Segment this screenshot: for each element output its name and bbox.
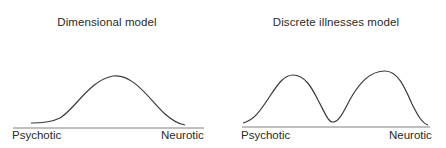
discrete-right-label: Neurotic [389,129,432,141]
discrete-left-label: Psychotic [241,129,290,141]
discrete-panel: Discrete illnesses model Psychotic Neuro… [0,0,446,148]
discrete-title: Discrete illnesses model [273,16,399,28]
